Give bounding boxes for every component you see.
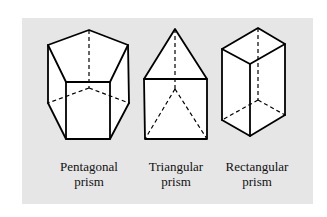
prisms-diagram: Pentagonal prism Triangular prism Rectan… xyxy=(0,0,327,217)
rectangular-label-line1: Rectangular xyxy=(226,159,289,174)
triangular-prism xyxy=(144,29,207,139)
pentagonal-prism xyxy=(48,30,129,139)
pentagonal-edge-right xyxy=(128,45,129,103)
triangular-label-line1: Triangular xyxy=(149,159,204,174)
pentagonal-label-line2: prism xyxy=(74,174,104,189)
pentagonal-label-line1: Pentagonal xyxy=(60,159,118,174)
triangular-label-line2: prism xyxy=(161,174,191,189)
rectangular-prism xyxy=(222,28,285,136)
rectangular-label-line2: prism xyxy=(242,174,272,189)
